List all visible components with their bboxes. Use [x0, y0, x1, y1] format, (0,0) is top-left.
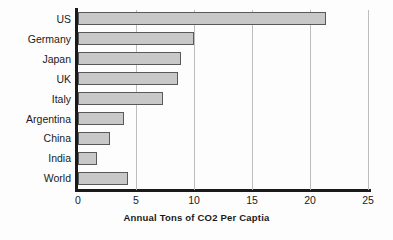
- x-tick-label-0: 0: [58, 194, 98, 206]
- plot-area: [78, 10, 368, 190]
- bar-row: [78, 169, 368, 189]
- bar-germany[interactable]: [78, 32, 194, 45]
- bar-italy[interactable]: [78, 92, 163, 105]
- bar-row: [78, 90, 368, 110]
- bar-chart-figure: USGermanyJapanUKItalyArgentinaChinaIndia…: [0, 0, 393, 240]
- bar-row: [78, 110, 368, 130]
- bar-row: [78, 50, 368, 70]
- bar-china[interactable]: [78, 132, 110, 145]
- category-label-us: US: [0, 10, 71, 30]
- bar-row: [78, 30, 368, 50]
- x-tick-label-25: 25: [348, 194, 388, 206]
- category-label-uk: UK: [0, 70, 71, 90]
- category-label-world: World: [0, 169, 71, 189]
- x-tick-label-5: 5: [116, 194, 156, 206]
- bar-japan[interactable]: [78, 52, 181, 65]
- bar-row: [78, 70, 368, 90]
- bar-india[interactable]: [78, 152, 97, 165]
- category-label-china: China: [0, 129, 71, 149]
- x-axis-title: Annual Tons of CO2 Per Captia: [0, 212, 393, 223]
- category-label-argentina: Argentina: [0, 110, 71, 130]
- x-tick-label-10: 10: [174, 194, 214, 206]
- gridline-25: [368, 10, 369, 190]
- x-tick-label-20: 20: [290, 194, 330, 206]
- category-label-india: India: [0, 149, 71, 169]
- category-label-italy: Italy: [0, 90, 71, 110]
- category-label-japan: Japan: [0, 50, 71, 70]
- bar-row: [78, 10, 368, 30]
- bar-world[interactable]: [78, 172, 128, 185]
- bar-us[interactable]: [78, 12, 326, 25]
- bar-argentina[interactable]: [78, 112, 124, 125]
- bar-row: [78, 149, 368, 169]
- bar-row: [78, 129, 368, 149]
- bar-uk[interactable]: [78, 72, 178, 85]
- x-tick-label-15: 15: [232, 194, 272, 206]
- category-label-germany: Germany: [0, 30, 71, 50]
